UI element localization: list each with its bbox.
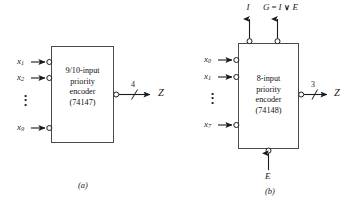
top-output-g-operand-i: I [279, 2, 282, 12]
top-output-label-b-g: G=I∨E [263, 3, 298, 12]
input-ellipsis-a-dot3: • [24, 103, 26, 107]
figure-caption-b: (b) [265, 187, 275, 196]
block-label-b-line3: encoder [239, 95, 299, 106]
input-ellipsis-a: • • • [24, 94, 26, 107]
input-pin-a-x9 [31, 126, 52, 131]
bus-width-label-a: 4 [131, 81, 135, 89]
input-label-b-x7: x7 [204, 120, 211, 129]
input-label-a-x2: x2 [17, 73, 24, 82]
bus-width-value-b: 3 [311, 80, 315, 89]
block-label-a-line1: 9/10-input [52, 66, 114, 77]
input-pin-b-e [266, 148, 271, 170]
input-label-b-x0: x0 [204, 55, 211, 64]
input-pin-a-x2 [31, 76, 52, 81]
input-label-a-x9-sub: 9 [21, 125, 24, 132]
output-label-a-z-text: Z [158, 87, 164, 98]
input-pin-a-x1 [31, 60, 52, 65]
output-pin-b-z [299, 90, 327, 100]
input-label-b-x1: x1 [204, 72, 211, 81]
top-output-g-operand-e: E [293, 2, 299, 12]
bottom-input-label-b-e-text: E [265, 171, 271, 181]
output-label-a-z: Z [158, 88, 164, 99]
output-pin-b-i [247, 19, 252, 44]
block-label-a: 9/10-input priority encoder (74147) [52, 66, 114, 108]
input-label-a-x1: x1 [17, 57, 24, 66]
figure-caption-b-text: (b) [265, 186, 275, 196]
block-label-b: 8-input priority encoder (74148) [239, 74, 299, 116]
input-label-a-x1-sub: 1 [21, 59, 24, 66]
top-output-g-symbol: G [263, 2, 270, 12]
input-label-b-x1-sub: 1 [208, 74, 211, 81]
block-label-b-line4: (74148) [239, 106, 299, 117]
input-ellipsis-b-dot3: • [211, 101, 213, 105]
input-pin-b-x7 [218, 123, 239, 128]
input-label-b-x7-sub: 7 [208, 122, 211, 129]
top-output-g-equals: = [272, 2, 277, 12]
figure-caption-a: (a) [78, 181, 88, 190]
top-output-label-b-i-text: I [247, 2, 250, 12]
or-operator-icon: ∨ [284, 3, 290, 12]
figure-canvas: 9/10-input priority encoder (74147) x1 x… [0, 0, 353, 206]
output-label-b-z: Z [334, 88, 340, 99]
block-label-b-line1: 8-input [239, 74, 299, 85]
figure-caption-a-text: (a) [78, 180, 88, 190]
block-label-a-line2: priority [52, 77, 114, 88]
output-pin-b-g [275, 19, 280, 44]
input-label-b-x0-sub: 0 [208, 57, 211, 64]
input-label-a-x9: x9 [17, 123, 24, 132]
input-label-a-x2-sub: 2 [21, 75, 24, 82]
bottom-input-label-b-e: E [265, 172, 271, 181]
block-label-b-line2: priority [239, 85, 299, 96]
block-label-a-line3: encoder [52, 87, 114, 98]
top-output-label-b-i: I [247, 3, 250, 12]
bus-width-label-b: 3 [311, 81, 315, 89]
input-ellipsis-b: • • • [211, 92, 213, 105]
input-pin-b-x1 [218, 75, 239, 80]
output-pin-a-z [114, 90, 150, 100]
output-label-b-z-text: Z [334, 87, 340, 98]
bus-width-value-a: 4 [131, 80, 135, 89]
block-label-a-line4: (74147) [52, 98, 114, 109]
input-pin-b-x0 [218, 58, 239, 63]
